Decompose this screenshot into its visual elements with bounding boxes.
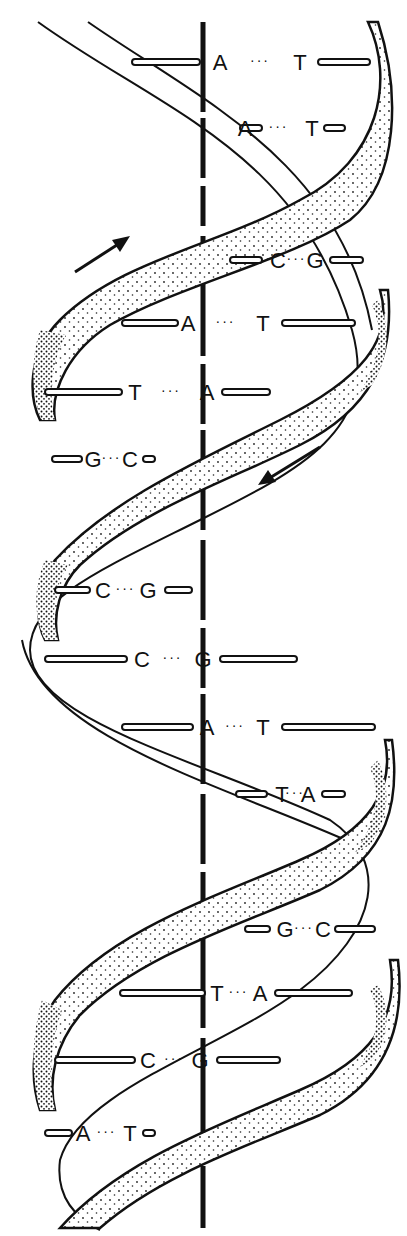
base-left: A: [76, 1121, 91, 1146]
sugar-phosphate-bond-left: [132, 59, 200, 65]
sugar-phosphate-bond-right: [330, 257, 363, 263]
strand-direction-up-arrow: [75, 236, 130, 272]
sugar-phosphate-bond-right: [165, 587, 192, 593]
base-right: T: [123, 1121, 136, 1146]
sugar-phosphate-bond-right: [222, 389, 270, 395]
sugar-phosphate-bond-left: [230, 257, 262, 263]
sugar-phosphate-bond-right: [324, 125, 345, 131]
sugar-phosphate-bond-left: [55, 1057, 135, 1063]
base-left: A: [213, 50, 228, 75]
base-right: T: [256, 715, 269, 740]
base-right: G: [306, 248, 323, 273]
dna-double-helix-diagram: A···TA···TC···GA···TT···AG···CC···GC···G…: [0, 0, 407, 1236]
sugar-phosphate-bond-right: [220, 656, 297, 662]
sugar-phosphate-bond-left: [122, 724, 193, 730]
sugar-phosphate-bond-left: [236, 791, 267, 797]
sugar-phosphate-bond-left: [55, 587, 90, 593]
base-pair: C···G: [55, 1048, 280, 1073]
base-right: C: [122, 447, 138, 472]
base-right: A: [301, 782, 316, 807]
base-right: T: [293, 50, 306, 75]
base-pair: C···G: [45, 647, 297, 672]
base-left: A: [238, 116, 253, 141]
base-left: G: [84, 447, 101, 472]
base-pair: A···T: [45, 1121, 155, 1146]
front-strand-ribbon: [33, 22, 400, 1228]
hydrogen-bond-dots: ···: [164, 1050, 184, 1066]
base-pair: A···T: [132, 50, 370, 75]
base-pair: T···A: [120, 981, 352, 1006]
hydrogen-bond-dots: ···: [97, 1123, 117, 1139]
base-right: G: [194, 647, 211, 672]
base-pair: C···G: [55, 578, 192, 603]
sugar-phosphate-bond-left: [245, 926, 270, 932]
sugar-phosphate-bond-right: [335, 926, 375, 932]
sugar-phosphate-bond-right: [217, 1057, 280, 1063]
hydrogen-bond-dots: ···: [225, 717, 245, 733]
hydrogen-bond-dots: ···: [116, 580, 136, 596]
base-pair: T···A: [45, 380, 270, 405]
sugar-phosphate-bond-right: [322, 791, 345, 797]
sugar-phosphate-bond-left: [45, 389, 122, 395]
base-right: G: [191, 1048, 208, 1073]
base-right: A: [253, 981, 268, 1006]
base-right: T: [305, 116, 318, 141]
sugar-phosphate-bond-left: [122, 320, 178, 326]
sugar-phosphate-bond-right: [143, 456, 155, 462]
base-left: C: [95, 578, 111, 603]
base-left: A: [200, 715, 215, 740]
hydrogen-bond-dots: ···: [216, 313, 236, 329]
base-left: C: [270, 248, 286, 273]
base-left: T: [210, 981, 223, 1006]
sugar-phosphate-bond-right: [282, 320, 355, 326]
sugar-phosphate-bond-right: [275, 990, 352, 996]
base-left: T: [128, 380, 141, 405]
base-right: T: [256, 311, 269, 336]
hydrogen-bond-dots: ···: [163, 649, 183, 665]
base-right: C: [315, 917, 331, 942]
sugar-phosphate-bond-left: [120, 990, 205, 996]
base-right: A: [200, 380, 215, 405]
hydrogen-bond-dots: ···: [229, 983, 249, 999]
hydrogen-bond-dots: ···: [102, 449, 122, 465]
base-pair: A···T: [122, 311, 355, 336]
hydrogen-bond-dots: ···: [250, 52, 270, 68]
sugar-phosphate-bond-right: [318, 59, 370, 65]
base-left: C: [140, 1048, 156, 1073]
base-pair: G···C: [245, 917, 375, 942]
hydrogen-bond-dots: ···: [294, 919, 314, 935]
hydrogen-bond-dots: ···: [269, 118, 289, 134]
base-left: G: [276, 917, 293, 942]
base-left: A: [181, 311, 196, 336]
sugar-phosphate-bond-right: [282, 724, 375, 730]
sugar-phosphate-bond-right: [143, 1130, 155, 1136]
hydrogen-bond-dots: ···: [161, 382, 181, 398]
base-pair: G···C: [52, 447, 155, 472]
sugar-phosphate-bond-left: [45, 1130, 72, 1136]
sugar-phosphate-bond-left: [52, 456, 82, 462]
base-left: C: [134, 647, 150, 672]
base-pair: A···T: [122, 715, 375, 740]
base-right: G: [139, 578, 156, 603]
sugar-phosphate-bond-left: [45, 656, 127, 662]
hydrogen-bond-dots: ···: [287, 250, 307, 266]
